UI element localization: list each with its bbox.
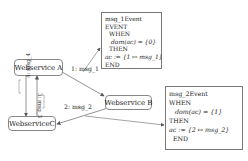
node-webservice-c: WebserviceC [8,116,56,131]
node-webservice-c-label: WebserviceC [9,120,55,128]
event1-action: ac := {1 ↦ msg_1} [105,53,158,61]
event2-action: ac := {2 ↦ msg_2} [169,125,239,134]
event-box-msg1: msg_1Event EVENT WHEN dom(ac) = {0} THEN… [101,12,162,69]
event1-keyword-then: THEN [105,45,158,53]
node-webservice-a-label: Webservice A [15,64,63,72]
edge-label-b-to-c: 2: msg_2 [64,103,92,110]
node-webservice-b-label: Webservice B [105,99,153,107]
event1-keyword-end: END [105,61,158,69]
event2-keyword-when: WHEN [169,98,239,107]
event2-keyword-then: THEN [169,116,239,125]
event1-keyword-when: WHEN [105,30,158,38]
event2-guard: dom(ac) = {1} [169,107,239,116]
node-webservice-b: Webservice B [105,95,152,110]
event2-title: msg_2Event [169,89,239,98]
edge-b-to-c [57,108,108,124]
event-box-msg2: msg_2Event WHEN dom(ac) = {1} THEN ac :=… [165,86,243,150]
event1-guard: dom(ac) = {0} [105,38,158,46]
event1-keyword-event: EVENT [105,23,158,31]
node-webservice-a: Webservice A [14,59,63,76]
edge-label-a-to-b: 1: msg_1 [71,65,99,72]
connector-msg2-event [85,116,164,125]
edge-a-to-b [62,72,104,96]
event2-keyword-end: END [169,134,239,143]
event1-title: msg_1Event [105,15,158,23]
edge-label-a-to-c: 4: msg_4 [25,53,31,78]
edge-label-c-to-a: 3: msg_3 [37,93,43,118]
